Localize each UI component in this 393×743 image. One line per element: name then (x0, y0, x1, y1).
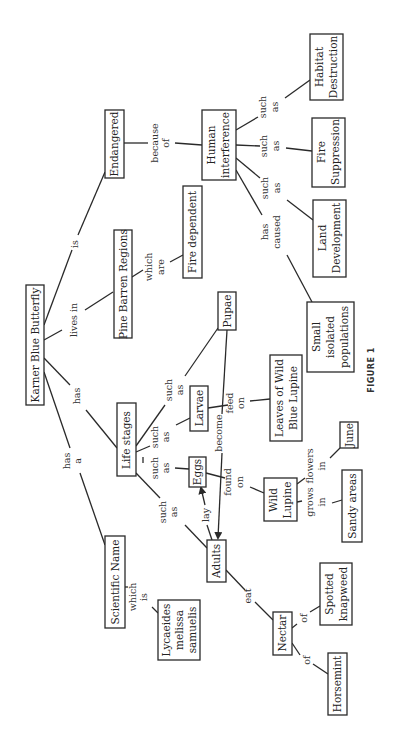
svg-text:Horsemint: Horsemint (331, 655, 343, 712)
svg-text:Lycaeides: Lycaeides (160, 604, 172, 657)
svg-text:Wild: Wild (267, 488, 279, 512)
link-label-become: become (213, 414, 224, 452)
node-endangered: Endangered (105, 110, 124, 178)
link-label-flowers-in: flowers (304, 448, 315, 483)
svg-text:in: in (316, 497, 327, 506)
svg-text:Spotted: Spotted (323, 573, 335, 615)
svg-text:Leaves of Wild: Leaves of Wild (273, 359, 285, 437)
svg-text:as: as (160, 432, 171, 443)
link-label-such-as-pupae: such (163, 379, 174, 401)
svg-text:caused: caused (271, 215, 282, 249)
svg-text:Life stages: Life stages (120, 411, 132, 469)
node-pine-barren-regions: Pine Barren Regions (114, 229, 132, 339)
svg-text:on: on (235, 397, 246, 409)
svg-text:knapweed: knapweed (337, 567, 349, 622)
node-habitat-destruction: Habitat Destruction (310, 34, 343, 100)
svg-text:Sandy areas: Sandy areas (346, 473, 358, 538)
svg-text:populations: populations (338, 306, 350, 368)
svg-text:are: are (155, 259, 166, 275)
svg-text:Nectar: Nectar (276, 614, 288, 652)
node-land-development: Land Development (313, 200, 346, 277)
link-label-such-as-land: such (259, 177, 270, 199)
node-lycaeides-melissa-samuelis: Lycaeides melissa samuelis (158, 600, 200, 660)
node-life-stages: Life stages (117, 403, 136, 476)
svg-text:Small: Small (310, 321, 322, 352)
svg-text:interference: interference (219, 112, 231, 178)
svg-text:Pine Barren Regions: Pine Barren Regions (117, 229, 129, 339)
svg-text:isolated: isolated (324, 316, 336, 358)
link-label-lives-in: lives in (68, 303, 79, 337)
node-spotted-knapweed: Spotted knapweed (320, 563, 352, 625)
link-label-such-as-eggs: such (149, 457, 160, 479)
node-eggs: Eggs (189, 457, 206, 487)
svg-text:Lupine: Lupine (281, 482, 293, 519)
svg-text:as: as (269, 102, 280, 113)
link-label-grows-in: grows (304, 487, 315, 516)
svg-text:Larvae: Larvae (193, 390, 205, 427)
link-label-such-as-larvae: such (149, 426, 160, 448)
node-horsemint: Horsemint (328, 653, 347, 715)
link-label-lay: lay (200, 507, 211, 522)
figure-caption: FIGURE 1 (367, 347, 376, 392)
svg-text:as: as (270, 141, 281, 152)
link-label-has: has (71, 388, 82, 405)
svg-text:Human: Human (205, 125, 217, 164)
svg-text:samuelis: samuelis (186, 607, 198, 654)
node-leaves-of-wild-blue-lupine: Leaves of Wild Blue Lupine (270, 355, 302, 441)
node-sandy-areas: Sandy areas (342, 470, 362, 542)
svg-text:as: as (174, 385, 185, 396)
svg-text:Land: Land (316, 224, 328, 251)
svg-text:Pupae: Pupae (221, 294, 233, 327)
svg-text:in: in (316, 461, 327, 470)
link-label-which-is: which (127, 583, 138, 612)
link-label-of-horsemint: of (301, 654, 312, 665)
svg-text:as: as (271, 183, 282, 194)
link-label-such-as-habitat: such (257, 96, 268, 118)
svg-text:a: a (72, 458, 83, 464)
link-label-because-of: because (149, 123, 160, 163)
svg-text:June: June (343, 423, 355, 448)
node-fire-suppression: Fire Suppression (312, 118, 345, 187)
svg-text:Suppression: Suppression (329, 119, 341, 185)
link-label-has-a: has (61, 453, 72, 470)
node-karner-blue-butterfly: Karner Blue Butterfly (26, 285, 44, 405)
svg-text:is: is (138, 593, 149, 601)
link-label-eat: eat (242, 588, 253, 603)
svg-text:Blue Lupine: Blue Lupine (287, 366, 299, 430)
svg-text:Adults: Adults (210, 544, 222, 579)
link-label-feed-on: feed (224, 393, 235, 414)
svg-text:Fire dependent: Fire dependent (186, 190, 198, 273)
svg-text:Fire: Fire (315, 141, 327, 163)
link-label-of-spotted: of (298, 612, 309, 623)
svg-text:Eggs: Eggs (191, 459, 203, 486)
concept-map: Karner Blue Butterfly Endangered Pine Ba… (0, 0, 393, 743)
svg-text:Development: Development (330, 202, 342, 273)
node-wild-lupine: Wild Lupine (264, 478, 297, 521)
svg-text:Destruction: Destruction (327, 35, 339, 98)
node-nectar: Nectar (273, 612, 292, 655)
svg-text:Scientific Name: Scientific Name (109, 540, 121, 625)
node-pupae: Pupae (218, 292, 236, 330)
svg-text:as: as (168, 507, 179, 518)
link-label-which-are: which (143, 253, 154, 282)
link-label-such-as-fire-suppression: such (258, 135, 269, 157)
svg-text:Karner Blue Butterfly: Karner Blue Butterfly (29, 287, 41, 402)
node-june: June (340, 422, 358, 448)
link-label-has-caused: has (259, 224, 270, 241)
svg-text:as: as (160, 463, 171, 474)
node-human-interference: Human interference (202, 110, 236, 180)
node-fire-dependent: Fire dependent (183, 186, 202, 278)
link-label-such-as-adults: such (157, 501, 168, 523)
node-adults: Adults (207, 540, 226, 582)
node-scientific-name: Scientific Name (105, 536, 125, 628)
svg-text:melissa: melissa (173, 610, 185, 650)
svg-text:of: of (160, 137, 171, 148)
node-small-isolated-populations: Small isolated populations (307, 302, 354, 372)
node-larvae: Larvae (190, 386, 208, 431)
link-label-found-on: found (222, 468, 233, 496)
svg-text:Habitat: Habitat (313, 46, 325, 87)
svg-text:Endangered: Endangered (108, 111, 120, 176)
svg-text:on: on (234, 476, 245, 488)
link-label-is: is (69, 240, 80, 248)
